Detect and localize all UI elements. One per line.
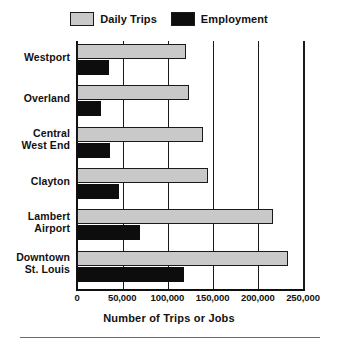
bar-employment bbox=[77, 225, 140, 240]
category-label-central-west-end: CentralWest End bbox=[0, 127, 70, 151]
category-label-line: Westport bbox=[0, 51, 70, 63]
category-label-line: St. Louis bbox=[0, 263, 70, 275]
bar-group-lambert-airport bbox=[77, 206, 337, 247]
x-tick-label-250000: 250,000 bbox=[286, 292, 320, 303]
chart-legend: Daily Trips Employment bbox=[0, 8, 338, 30]
bar-employment bbox=[77, 101, 101, 116]
category-label-line: Central bbox=[0, 127, 70, 139]
category-label-line: Clayton bbox=[0, 175, 70, 187]
category-label-line: West End bbox=[0, 139, 70, 151]
bar-daily-trips bbox=[77, 168, 208, 183]
legend-label-daily-trips: Daily Trips bbox=[100, 13, 157, 25]
category-label-line: Lambert bbox=[0, 210, 70, 222]
category-label-line: Downtown bbox=[0, 251, 70, 263]
category-label-overland: Overland bbox=[0, 92, 70, 104]
legend-item-employment: Employment bbox=[171, 12, 268, 26]
bar-group-clayton bbox=[77, 165, 337, 206]
category-label-westport: Westport bbox=[0, 51, 70, 63]
category-label-line: Overland bbox=[0, 92, 70, 104]
bar-employment bbox=[77, 143, 110, 158]
x-tick-label-50000: 50,000 bbox=[108, 292, 136, 303]
bar-group-overland bbox=[77, 82, 337, 123]
bar-daily-trips bbox=[77, 209, 273, 224]
x-tick-label-100000: 100,000 bbox=[151, 292, 185, 303]
category-label-line: Airport bbox=[0, 222, 70, 234]
category-label-downtown-st-louis: DowntownSt. Louis bbox=[0, 251, 70, 275]
category-label-lambert-airport: LambertAirport bbox=[0, 210, 70, 234]
bar-group-central-west-end bbox=[77, 124, 337, 165]
bar-employment bbox=[77, 184, 119, 199]
legend-swatch-employment bbox=[171, 12, 195, 26]
bar-daily-trips bbox=[77, 85, 189, 100]
legend-label-employment: Employment bbox=[201, 13, 268, 25]
bar-daily-trips bbox=[77, 44, 186, 59]
bar-employment bbox=[77, 60, 109, 75]
x-axis-tick-labels: 050,000100,000150,000200,000250,000 bbox=[0, 292, 338, 308]
x-tick-label-200000: 200,000 bbox=[241, 292, 275, 303]
bar-daily-trips bbox=[77, 251, 288, 266]
bar-daily-trips bbox=[77, 127, 203, 142]
x-tick-label-150000: 150,000 bbox=[196, 292, 230, 303]
bar-group-westport bbox=[77, 41, 337, 82]
legend-swatch-daily-trips bbox=[70, 12, 94, 26]
legend-item-daily-trips: Daily Trips bbox=[70, 12, 157, 26]
x-axis-title: Number of Trips or Jobs bbox=[0, 312, 338, 324]
bar-employment bbox=[77, 267, 184, 282]
bar-rows bbox=[77, 41, 337, 289]
category-label-clayton: Clayton bbox=[0, 175, 70, 187]
x-tick-label-0: 0 bbox=[74, 292, 79, 303]
bar-chart-figure: Daily Trips Employment WestportOverlandC… bbox=[0, 0, 338, 346]
y-axis-category-labels: WestportOverlandCentralWest EndClaytonLa… bbox=[0, 41, 70, 289]
footer-divider bbox=[20, 337, 320, 338]
bar-group-downtown-st-louis bbox=[77, 248, 337, 289]
